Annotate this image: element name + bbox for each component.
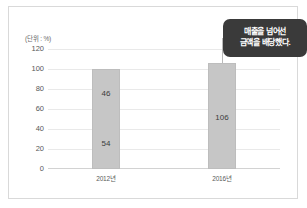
gridline bbox=[48, 129, 280, 130]
annotation-callout: 매출을 넘어선 금액을 배당했다. bbox=[223, 19, 307, 57]
y-axis-tick-label: 40 bbox=[10, 125, 44, 133]
chart-figure: (단위 : %) 020406080100120 46542012년106201… bbox=[8, 6, 298, 199]
bar: 106 bbox=[208, 63, 236, 169]
y-axis-tick-label: 0 bbox=[10, 165, 44, 173]
x-axis-tick-label: 2012년 bbox=[71, 173, 141, 183]
plot-area: 46542012년1062016년 bbox=[48, 49, 280, 169]
annotation-line-1: 매출을 넘어선 bbox=[244, 27, 286, 38]
bar-value-label: 106 bbox=[209, 113, 235, 122]
annotation-leader-line-vertical bbox=[222, 38, 223, 63]
y-axis-tick-label: 60 bbox=[10, 105, 44, 113]
y-axis-tick-label: 120 bbox=[10, 45, 44, 53]
gridline bbox=[48, 89, 280, 90]
bar-value-label: 46 bbox=[93, 89, 119, 98]
gridline bbox=[48, 69, 280, 70]
bar: 4654 bbox=[92, 69, 120, 169]
x-axis-tick-label: 2016년 bbox=[187, 173, 257, 183]
y-axis: 020406080100120 bbox=[9, 49, 44, 169]
axis-baseline bbox=[48, 168, 280, 169]
y-axis-tick-label: 80 bbox=[10, 85, 44, 93]
gridline bbox=[48, 109, 280, 110]
annotation-line-2: 금액을 배당했다. bbox=[240, 38, 291, 49]
bar-value-label: 54 bbox=[93, 139, 119, 148]
gridline bbox=[48, 149, 280, 150]
y-axis-tick-label: 20 bbox=[10, 145, 44, 153]
unit-label: (단위 : %) bbox=[25, 33, 51, 43]
annotation-leader-line-horizontal bbox=[222, 38, 223, 39]
y-axis-tick-label: 100 bbox=[10, 65, 44, 73]
